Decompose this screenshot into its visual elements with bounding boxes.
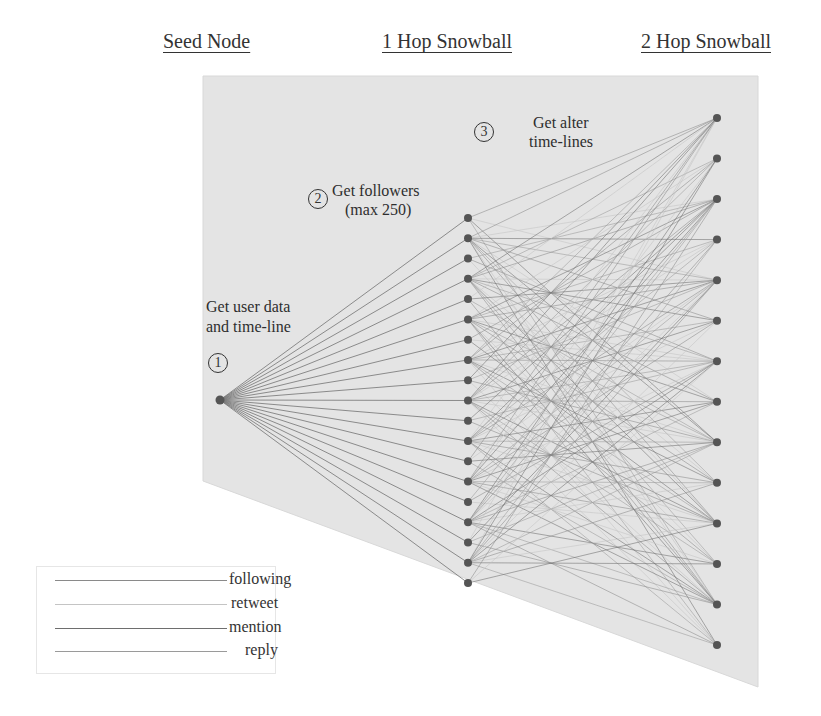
mention-line-swatch <box>55 628 227 629</box>
hop2-node <box>713 236 721 244</box>
hop1-node <box>464 376 472 384</box>
hop2-node <box>713 600 721 608</box>
following-line-swatch <box>55 580 227 581</box>
column-header-2-hop-snowball: 2 Hop Snowball <box>641 30 771 53</box>
legend-label-mention: mention <box>229 618 281 636</box>
legend-item-retweet: retweet <box>37 593 275 615</box>
step-2-text-line2: (max 250) <box>345 201 411 219</box>
step-3-number-icon: 3 <box>474 122 494 142</box>
legend-item-mention: mention <box>37 617 275 639</box>
hop1-node <box>464 478 472 486</box>
step-3-text-line2: time-lines <box>529 133 593 151</box>
step-1-text-line1: Get user data <box>206 298 290 316</box>
hop2-node <box>713 519 721 527</box>
legend-item-following: following <box>37 569 275 591</box>
hop2-node <box>713 357 721 365</box>
hop1-node <box>464 559 472 567</box>
edge <box>220 400 468 401</box>
hop1-node <box>464 214 472 222</box>
hop1-node <box>464 518 472 526</box>
hop1-node <box>464 579 472 587</box>
hop1-node <box>464 356 472 364</box>
hop2-node <box>713 479 721 487</box>
hop1-node <box>464 336 472 344</box>
step-2-text-line1: Get followers <box>332 182 420 200</box>
hop1-node <box>464 397 472 405</box>
seed-node <box>216 396 225 405</box>
hop2-node <box>713 317 721 325</box>
column-header-1-hop-snowball: 1 Hop Snowball <box>382 30 512 53</box>
hop2-node <box>713 641 721 649</box>
hop1-node <box>464 255 472 263</box>
hop2-node <box>713 155 721 163</box>
legend-label-retweet: retweet <box>231 594 278 612</box>
hop2-node <box>713 195 721 203</box>
hop2-node <box>713 114 721 122</box>
step-2-number-icon: 2 <box>308 189 328 209</box>
step-1-number-icon: 1 <box>208 353 228 373</box>
hop1-node <box>464 538 472 546</box>
hop2-node <box>713 276 721 284</box>
step-3-text-line1: Get alter <box>533 114 589 132</box>
retweet-line-swatch <box>55 604 227 605</box>
column-header-seed-node: Seed Node <box>163 30 250 53</box>
hop1-node <box>464 417 472 425</box>
reply-line-swatch <box>55 651 227 652</box>
legend-label-reply: reply <box>245 641 278 659</box>
hop1-node <box>464 457 472 465</box>
hop2-node <box>713 398 721 406</box>
hop1-node <box>464 234 472 242</box>
hop1-node <box>464 498 472 506</box>
hop2-node <box>713 560 721 568</box>
hop1-node <box>464 295 472 303</box>
legend-item-reply: reply <box>37 640 275 662</box>
hop2-node <box>713 438 721 446</box>
hop1-node <box>464 437 472 445</box>
edge-type-legend: following retweet mention reply <box>36 566 276 674</box>
hop1-node <box>464 275 472 283</box>
step-1-text-line2: and time-line <box>206 318 291 336</box>
hop1-node <box>464 315 472 323</box>
legend-label-following: following <box>229 570 291 588</box>
